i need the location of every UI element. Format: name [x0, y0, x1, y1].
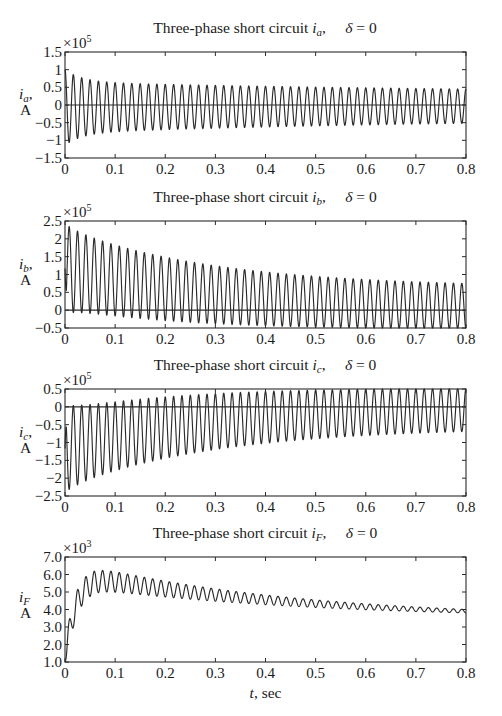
y-tick-label: 0.5: [43, 79, 62, 95]
x-tick-label: 0.1: [106, 499, 125, 515]
plot-title: Three-phase short circuit iF, δ = 0: [153, 524, 378, 543]
y-tick-label: 7.0: [43, 549, 62, 565]
x-tick-label: 0: [61, 161, 69, 177]
plot-title: Three-phase short circuit ib, δ = 0: [153, 188, 377, 207]
x-tick-label: 0.7: [407, 499, 426, 515]
y-tick-label: −1.5: [35, 150, 62, 166]
y-tick-label: 0: [55, 399, 63, 415]
y-tick-label: 2: [55, 231, 63, 247]
x-tick-label: 0.8: [457, 161, 476, 177]
y-tick-label: 5.0: [43, 584, 62, 600]
y-tick-label: 1: [55, 267, 63, 283]
y-tick-label: −1: [46, 132, 62, 148]
x-tick-label: 0.3: [206, 665, 225, 681]
chart-figure: Three-phase short circuit ia, δ = 0×1050…: [0, 0, 502, 716]
y-tick-label: −0.5: [35, 417, 62, 433]
x-tick-label: 0.5: [306, 499, 325, 515]
y-tick-label: 6.0: [43, 567, 62, 583]
y-axis-unit: A: [20, 101, 32, 118]
y-tick-label: 1.5: [43, 249, 62, 265]
x-tick-label: 0.4: [256, 665, 275, 681]
axis-exponent: ×103: [63, 538, 91, 556]
y-tick-label: −1.5: [35, 452, 62, 468]
x-tick-label: 0.4: [256, 331, 275, 347]
y-tick-label: 2.5: [43, 213, 62, 229]
x-tick-label: 0.2: [156, 665, 175, 681]
plot-if: Three-phase short circuit iF, δ = 0×1030…: [19, 524, 475, 681]
y-axis-unit: A: [20, 439, 32, 456]
axis-exponent: ×105: [63, 370, 91, 388]
plot-title: Three-phase short circuit ia, δ = 0: [153, 19, 377, 38]
y-tick-label: 0: [55, 302, 63, 318]
x-tick-label: 0.2: [156, 499, 175, 515]
x-tick-label: 0.4: [256, 499, 275, 515]
y-tick-label: 2.0: [43, 637, 62, 653]
x-tick-label: 0.3: [206, 499, 225, 515]
y-tick-label: 0: [55, 97, 63, 113]
x-tick-label: 0.7: [407, 331, 426, 347]
axis-exponent: ×105: [63, 33, 91, 51]
y-tick-label: 4.0: [43, 602, 62, 618]
y-tick-label: −2: [46, 470, 62, 486]
y-tick-label: 0.5: [43, 284, 62, 300]
x-tick-label: 0.6: [356, 665, 375, 681]
series-line-ib: [65, 227, 466, 328]
x-tick-label: 0.8: [457, 499, 476, 515]
x-tick-label: 0.3: [206, 161, 225, 177]
plot-ib: Three-phase short circuit ib, δ = 0×1050…: [19, 188, 475, 347]
x-tick-label: 0.1: [106, 665, 125, 681]
y-tick-label: 1: [55, 62, 63, 78]
x-tick-label: 0.1: [106, 161, 125, 177]
x-tick-label: 0.1: [106, 331, 125, 347]
x-tick-label: 0.7: [407, 161, 426, 177]
y-tick-label: −2.5: [35, 488, 62, 504]
y-axis-unit: A: [20, 604, 32, 621]
x-tick-label: 0.8: [457, 665, 476, 681]
x-tick-label: 0.5: [306, 331, 325, 347]
y-axis-unit: A: [20, 271, 32, 288]
y-tick-label: −0.5: [35, 320, 62, 336]
x-tick-label: 0.2: [156, 331, 175, 347]
x-tick-label: 0.6: [356, 331, 375, 347]
y-tick-label: −0.5: [35, 115, 62, 131]
plot-ic: Three-phase short circuit ic, δ = 0×1050…: [19, 356, 475, 515]
plot-ia: Three-phase short circuit ia, δ = 0×1050…: [19, 19, 475, 177]
y-tick-label: −1: [46, 435, 62, 451]
x-axis-label: t, sec: [250, 684, 282, 701]
x-tick-label: 0.8: [457, 331, 476, 347]
x-tick-label: 0.7: [407, 665, 426, 681]
x-tick-label: 0.4: [256, 161, 275, 177]
y-tick-label: 1.0: [43, 654, 62, 670]
series-line-ic: [65, 389, 466, 489]
x-tick-label: 0.5: [306, 665, 325, 681]
x-tick-label: 0.5: [306, 161, 325, 177]
x-tick-label: 0.2: [156, 161, 175, 177]
series-line-ia: [65, 70, 466, 143]
x-tick-label: 0: [61, 331, 69, 347]
plot-title: Three-phase short circuit ic, δ = 0: [154, 356, 377, 375]
x-tick-label: 0: [61, 665, 69, 681]
x-tick-label: 0.6: [356, 161, 375, 177]
x-tick-label: 0.6: [356, 499, 375, 515]
x-tick-label: 0.3: [206, 331, 225, 347]
series-line-iF: [65, 570, 466, 662]
y-tick-label: 1.5: [43, 44, 62, 60]
axis-exponent: ×105: [63, 202, 91, 220]
x-tick-label: 0: [61, 499, 69, 515]
y-tick-label: 3.0: [43, 619, 62, 635]
y-tick-label: 0.5: [43, 381, 62, 397]
